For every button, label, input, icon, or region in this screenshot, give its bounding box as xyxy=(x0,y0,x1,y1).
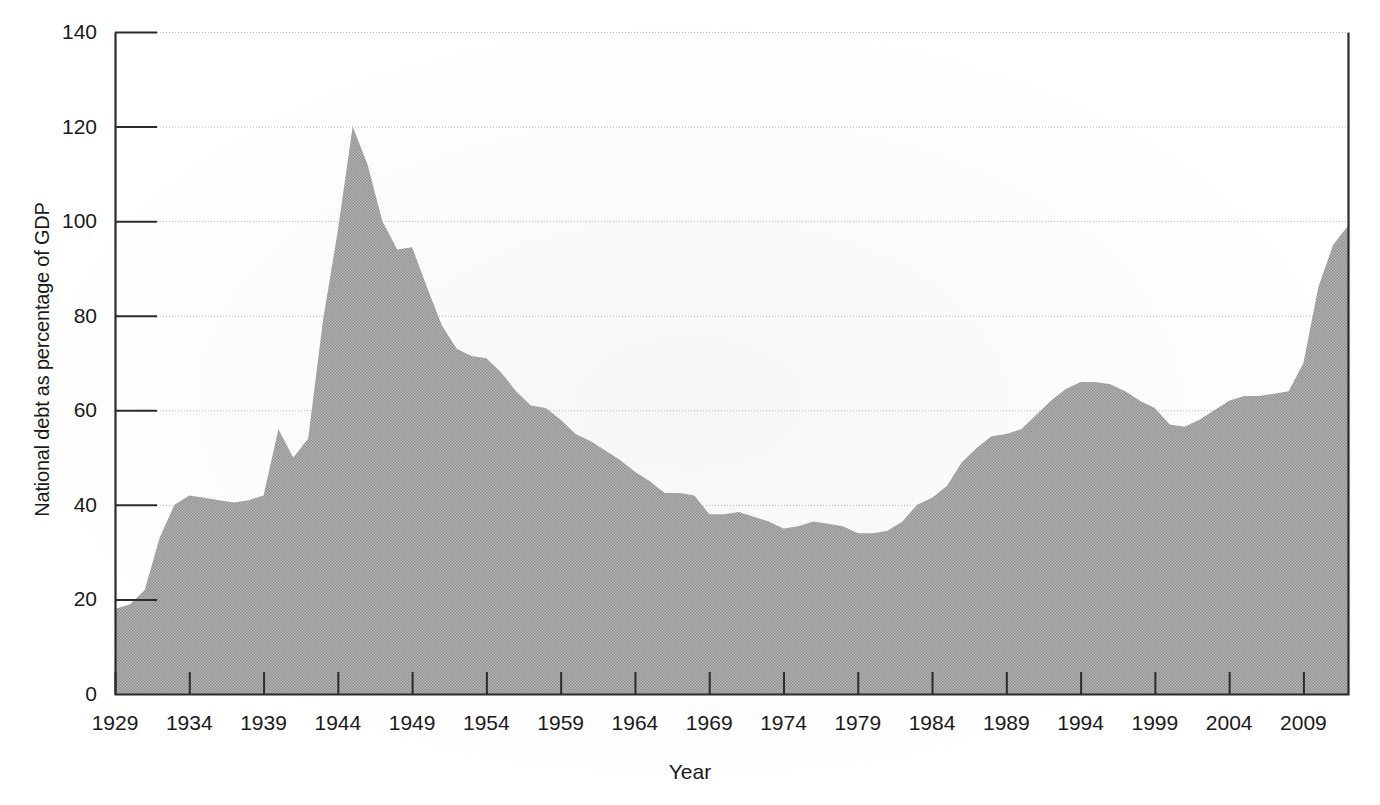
area-series xyxy=(115,127,1348,694)
chart-figure: National debt as percentage of GDP Year … xyxy=(0,0,1380,805)
plot-area xyxy=(0,0,1380,805)
y-axis-ticks xyxy=(115,33,157,600)
